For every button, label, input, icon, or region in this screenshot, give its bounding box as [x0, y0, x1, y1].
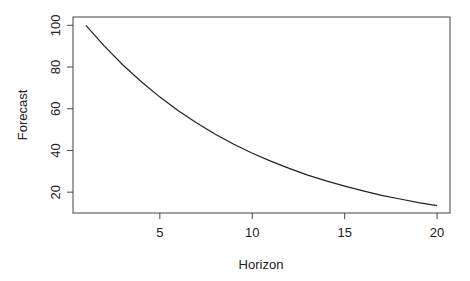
y-tick-label: 20	[48, 185, 63, 199]
x-axis-label: Horizon	[239, 257, 284, 272]
x-tick-label: 5	[156, 225, 163, 240]
forecast-line-chart: 20406080100 5101520 Horizon Forecast	[0, 0, 470, 281]
y-axis: 20406080100	[48, 14, 73, 199]
x-tick-label: 15	[337, 225, 351, 240]
y-tick-label: 40	[48, 143, 63, 157]
x-tick-label: 20	[430, 225, 444, 240]
plot-area-border	[73, 17, 450, 213]
x-axis: 5101520	[156, 213, 444, 240]
y-tick-label: 100	[48, 14, 63, 36]
y-tick-label: 60	[48, 102, 63, 116]
y-axis-label: Forecast	[15, 89, 30, 140]
x-tick-label: 10	[245, 225, 259, 240]
forecast-line	[86, 25, 437, 205]
y-tick-label: 80	[48, 60, 63, 74]
